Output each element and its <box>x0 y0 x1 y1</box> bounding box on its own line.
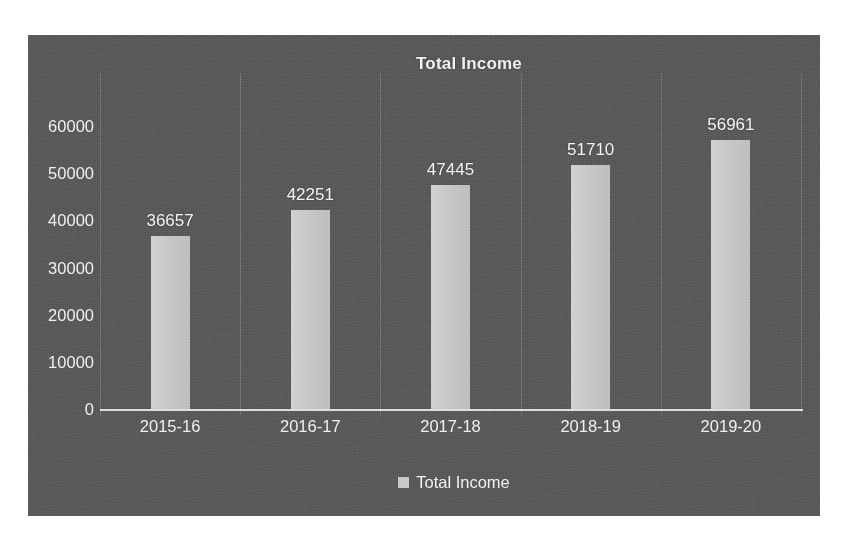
x-axis-category-label: 2017-18 <box>381 417 521 436</box>
plot-area: 3665742251474455171056961 <box>100 87 801 409</box>
chart-title: Total Income <box>28 54 820 74</box>
chart-panel: Total Income 010000200003000040000500006… <box>28 35 820 516</box>
bar-value-label: 36657 <box>115 211 225 231</box>
bar-value-label: 51710 <box>536 140 646 160</box>
x-axis-category-label: 2016-17 <box>240 417 380 436</box>
legend-label: Total Income <box>416 473 510 492</box>
bar[interactable] <box>151 236 190 409</box>
y-axis-tick-label: 40000 <box>28 211 94 230</box>
x-axis-category-label: 2018-19 <box>521 417 661 436</box>
bar-value-label: 47445 <box>395 160 505 180</box>
chart-page: Total Income 010000200003000040000500006… <box>0 0 846 544</box>
y-axis-tick-labels: 0100002000030000400005000060000 <box>28 35 94 516</box>
y-axis-tick-label: 50000 <box>28 164 94 183</box>
y-axis-tick-label: 30000 <box>28 258 94 277</box>
bar-group: 51710 <box>521 87 661 409</box>
bar-group: 56961 <box>661 87 801 409</box>
x-axis-line <box>100 409 803 411</box>
y-axis-tick-label: 0 <box>28 400 94 419</box>
bar[interactable] <box>431 185 470 409</box>
gridline <box>801 73 802 415</box>
chart-legend: Total Income <box>28 473 820 492</box>
bar-group: 47445 <box>380 87 520 409</box>
y-axis-tick-label: 10000 <box>28 352 94 371</box>
x-axis-category-label: 2015-16 <box>100 417 240 436</box>
y-axis-tick-label: 20000 <box>28 305 94 324</box>
x-axis-category-label: 2019-20 <box>661 417 801 436</box>
bar[interactable] <box>711 140 750 409</box>
bar-value-label: 56961 <box>676 115 786 135</box>
legend-swatch-icon <box>398 477 409 488</box>
bar[interactable] <box>291 210 330 409</box>
bar-group: 36657 <box>100 87 240 409</box>
bar-group: 42251 <box>240 87 380 409</box>
bar-value-label: 42251 <box>255 185 365 205</box>
bar[interactable] <box>571 165 610 409</box>
y-axis-tick-label: 60000 <box>28 117 94 136</box>
